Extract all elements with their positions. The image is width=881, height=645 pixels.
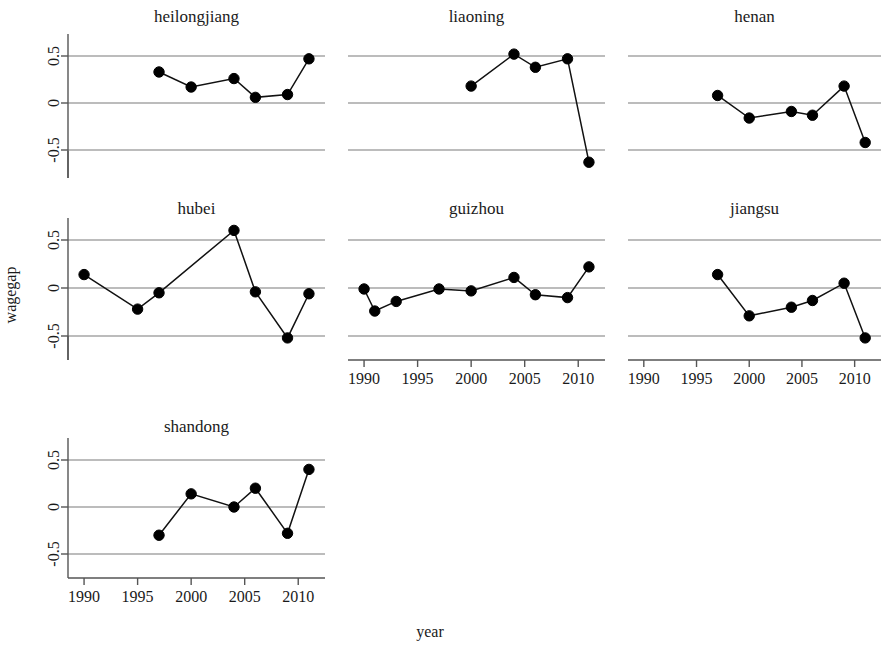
- panel-liaoning: liaoning: [348, 7, 605, 167]
- data-point-guizhou-2000: [466, 286, 476, 296]
- panel-title-heilongjiang: heilongjiang: [154, 7, 239, 26]
- data-point-liaoning-2004: [509, 49, 519, 59]
- x-tick-label-2000: 2000: [455, 370, 487, 387]
- data-point-hubei-2004: [229, 225, 239, 235]
- data-point-shandong-2000: [186, 489, 196, 499]
- x-tick-label-1990: 1990: [348, 370, 380, 387]
- data-point-liaoning-2000: [466, 81, 476, 91]
- y-tick-label-0.5: 0.5: [45, 450, 62, 470]
- data-point-hubei-1997: [154, 288, 164, 298]
- panel-henan: henan: [628, 7, 881, 150]
- x-axis-title: year: [416, 623, 444, 641]
- data-point-heilongjiang-2006: [250, 92, 260, 102]
- data-point-jiangsu-2004: [786, 302, 796, 312]
- data-point-henan-2009: [839, 81, 849, 91]
- small-multiples-chart: heilongjiang0.50-0.5liaoninghenanhubei0.…: [0, 0, 881, 645]
- data-point-shandong-2011: [304, 464, 314, 474]
- y-tick-label-0: 0: [45, 284, 62, 292]
- data-point-jiangsu-2000: [744, 311, 754, 321]
- data-point-liaoning-2006: [530, 62, 540, 72]
- data-point-henan-1997: [712, 90, 722, 100]
- data-point-guizhou-2004: [509, 272, 519, 282]
- panel-jiangsu: jiangsu19901995200020052010: [628, 199, 881, 387]
- x-tick-label-2010: 2010: [839, 370, 871, 387]
- data-point-hubei-2009: [282, 333, 292, 343]
- data-point-heilongjiang-2004: [229, 73, 239, 83]
- data-point-shandong-2004: [229, 502, 239, 512]
- data-point-jiangsu-2011: [860, 333, 870, 343]
- panel-title-jiangsu: jiangsu: [729, 199, 780, 218]
- panel-heilongjiang: heilongjiang0.50-0.5: [45, 7, 325, 178]
- x-tick-label-2010: 2010: [562, 370, 594, 387]
- data-point-shandong-2009: [282, 528, 292, 538]
- x-tick-label-2010: 2010: [282, 588, 314, 605]
- panel-group: heilongjiang0.50-0.5liaoninghenanhubei0.…: [45, 7, 881, 605]
- figure-container: heilongjiang0.50-0.5liaoninghenanhubei0.…: [0, 0, 881, 645]
- data-point-guizhou-2011: [584, 262, 594, 272]
- data-point-heilongjiang-2011: [304, 54, 314, 64]
- x-tick-label-1990: 1990: [68, 588, 100, 605]
- data-point-guizhou-1993: [391, 296, 401, 306]
- x-tick-label-1995: 1995: [681, 370, 713, 387]
- x-tick-label-2005: 2005: [509, 370, 541, 387]
- x-tick-label-1990: 1990: [628, 370, 660, 387]
- x-tick-label-2005: 2005: [786, 370, 818, 387]
- data-point-heilongjiang-2000: [186, 82, 196, 92]
- y-tick-label--0.5: -0.5: [45, 137, 62, 162]
- data-point-shandong-1997: [154, 530, 164, 540]
- data-point-guizhou-1997: [434, 284, 444, 294]
- data-point-hubei-1995: [132, 304, 142, 314]
- x-tick-label-1995: 1995: [402, 370, 434, 387]
- data-point-liaoning-2011: [584, 157, 594, 167]
- y-tick-label-0.5: 0.5: [45, 230, 62, 250]
- data-point-jiangsu-1997: [712, 269, 722, 279]
- series-line-liaoning: [471, 54, 589, 162]
- data-point-guizhou-1990: [359, 284, 369, 294]
- data-point-hubei-2011: [304, 289, 314, 299]
- data-point-henan-2000: [744, 113, 754, 123]
- y-tick-label--0.5: -0.5: [45, 323, 62, 348]
- panel-title-henan: henan: [734, 7, 775, 26]
- data-point-hubei-1990: [79, 269, 89, 279]
- data-point-shandong-2006: [250, 483, 260, 493]
- y-tick-label-0: 0: [45, 99, 62, 107]
- data-point-henan-2011: [860, 137, 870, 147]
- panel-shandong: shandong0.50-0.519901995200020052010: [45, 417, 325, 605]
- data-point-heilongjiang-2009: [282, 89, 292, 99]
- x-tick-label-2000: 2000: [733, 370, 765, 387]
- x-tick-label-1995: 1995: [122, 588, 154, 605]
- data-point-henan-2004: [786, 106, 796, 116]
- y-tick-label-0: 0: [45, 503, 62, 511]
- series-line-hubei: [84, 230, 309, 338]
- data-point-jiangsu-2006: [807, 295, 817, 305]
- x-tick-label-2005: 2005: [229, 588, 261, 605]
- panel-title-hubei: hubei: [178, 199, 216, 218]
- data-point-liaoning-2009: [562, 54, 572, 64]
- data-point-henan-2006: [807, 110, 817, 120]
- panel-title-guizhou: guizhou: [449, 199, 504, 218]
- x-tick-label-2000: 2000: [175, 588, 207, 605]
- y-tick-label-0.5: 0.5: [45, 46, 62, 66]
- data-point-guizhou-2006: [530, 290, 540, 300]
- data-point-heilongjiang-1997: [154, 67, 164, 77]
- data-point-hubei-2006: [250, 287, 260, 297]
- data-point-guizhou-1991: [370, 306, 380, 316]
- data-point-guizhou-2009: [562, 292, 572, 302]
- panel-title-shandong: shandong: [164, 417, 230, 436]
- panel-guizhou: guizhou19901995200020052010: [348, 199, 605, 387]
- data-point-jiangsu-2009: [839, 278, 849, 288]
- panel-title-liaoning: liaoning: [449, 7, 505, 26]
- y-axis-title: wagegap: [2, 267, 20, 324]
- y-tick-label--0.5: -0.5: [45, 541, 62, 566]
- panel-hubei: hubei0.50-0.5: [45, 199, 325, 360]
